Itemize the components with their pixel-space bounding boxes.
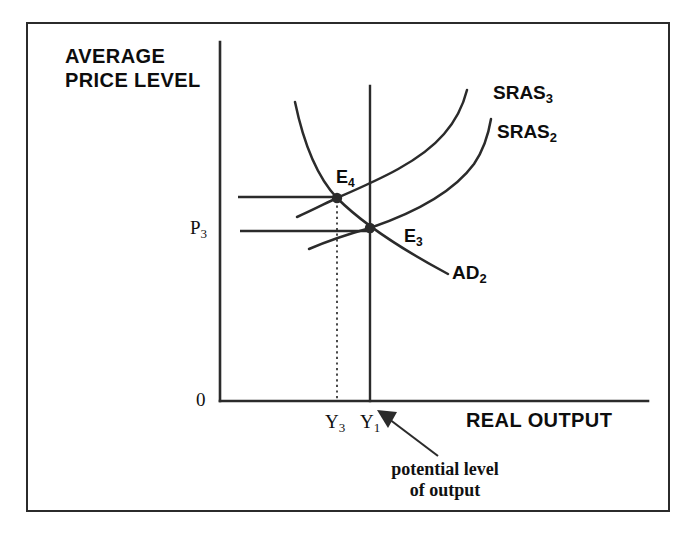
curve-label-sras3-base: SRAS — [493, 82, 546, 103]
origin-label: 0 — [196, 390, 206, 409]
equilibrium-point-e3 — [365, 223, 375, 233]
output-label-y3-sub: 3 — [339, 420, 346, 435]
x-axis-title: REAL OUTPUT — [466, 410, 612, 430]
point-label-e4-sub: 4 — [348, 176, 355, 190]
output-label-y3: Y3 — [325, 412, 345, 431]
output-label-y1-sub: 1 — [374, 420, 381, 435]
point-label-e3-base: E — [404, 226, 416, 246]
curve-label-sras3-sub: 3 — [546, 91, 553, 106]
curve-label-sras3: SRAS3 — [493, 83, 553, 102]
ad2-curve — [295, 102, 448, 274]
point-label-e4-base: E — [336, 167, 348, 187]
price-level-label: P3 — [190, 218, 207, 237]
curve-label-ad2-base: AD — [452, 262, 479, 283]
point-label-e3-sub: 3 — [416, 235, 423, 249]
annotation-line2: of output — [330, 480, 560, 501]
output-label-y1-base: Y — [360, 411, 374, 432]
output-label-y3-base: Y — [325, 411, 339, 432]
curve-label-ad2-sub: 2 — [479, 271, 486, 286]
point-label-e4: E4 — [336, 168, 355, 186]
point-label-e3: E3 — [404, 227, 423, 245]
y-axis-title-line1: AVERAGE — [65, 46, 165, 66]
curve-label-sras2: SRAS2 — [497, 122, 557, 141]
price-level-label-base: P — [190, 217, 201, 238]
annotation-line1: potential level — [330, 459, 560, 480]
figure-root: AVERAGE PRICE LEVEL REAL OUTPUT 0 P3 Y3 … — [0, 0, 689, 535]
output-label-y1: Y1 — [360, 412, 380, 431]
annotation-arrow-shaft — [389, 419, 438, 456]
curve-label-sras2-base: SRAS — [497, 121, 550, 142]
curve-label-ad2: AD2 — [452, 263, 487, 282]
equilibrium-point-e4 — [332, 193, 342, 203]
curve-label-sras2-sub: 2 — [550, 130, 557, 145]
price-level-label-sub: 3 — [201, 226, 208, 241]
y-axis-title-line2: PRICE LEVEL — [65, 70, 201, 90]
